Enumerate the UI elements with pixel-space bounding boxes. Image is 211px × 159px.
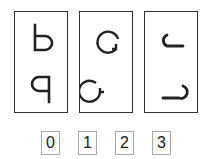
- panel-2: [79, 11, 133, 113]
- option-3-button[interactable]: 3: [152, 131, 171, 155]
- circular-arrow-icon: [80, 12, 134, 114]
- panel-3: [144, 11, 198, 113]
- hook-curve-icon: [145, 12, 199, 114]
- option-1-button[interactable]: 1: [78, 131, 97, 155]
- letter-b-and-q-icon: [15, 12, 69, 114]
- panel-1: [14, 11, 68, 113]
- option-0-button[interactable]: 0: [41, 131, 60, 155]
- option-2-button[interactable]: 2: [115, 131, 134, 155]
